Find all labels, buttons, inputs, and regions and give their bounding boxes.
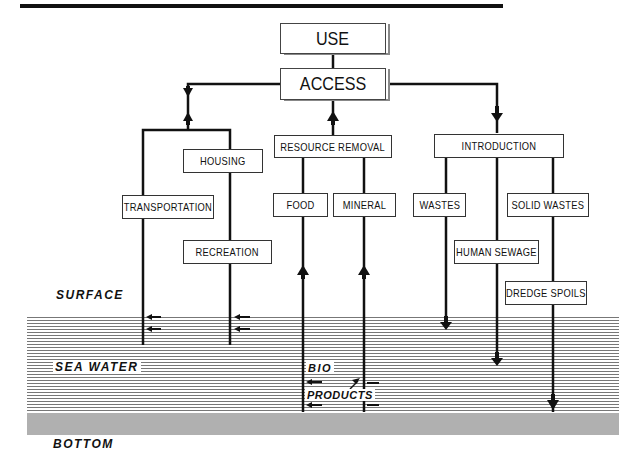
recreation-box: RECREATION bbox=[183, 240, 272, 264]
access-box: ACCESS bbox=[280, 68, 386, 100]
wastes-box: WASTES bbox=[413, 193, 466, 217]
resource-removal-label: RESOURCE REMOVAL bbox=[281, 141, 386, 153]
introduction-label: INTRODUCTION bbox=[462, 140, 537, 152]
introduction-box: INTRODUCTION bbox=[434, 134, 564, 158]
sea-water-label: SEA WATER bbox=[53, 360, 141, 374]
bottom-label: BOTTOM bbox=[51, 437, 116, 451]
housing-box: HOUSING bbox=[183, 149, 263, 173]
products-label: PRODUCTS bbox=[305, 389, 375, 401]
use-box: USE bbox=[280, 23, 386, 54]
transportation-label: TRANSPORTATION bbox=[124, 201, 212, 213]
mineral-box: MINERAL bbox=[333, 193, 396, 217]
human-sewage-label: HUMAN SEWAGE bbox=[456, 246, 537, 258]
mineral-label: MINERAL bbox=[343, 199, 386, 211]
surface-label: SURFACE bbox=[54, 288, 126, 302]
dredge-spoils-box: DREDGE SPOILS bbox=[505, 281, 587, 305]
wastes-label: WASTES bbox=[419, 199, 460, 211]
food-label: FOOD bbox=[286, 199, 314, 211]
bio-label: BIO bbox=[306, 362, 334, 374]
housing-label: HOUSING bbox=[200, 155, 245, 167]
transportation-box: TRANSPORTATION bbox=[122, 195, 214, 219]
solid-wastes-label: SOLID WASTES bbox=[512, 199, 585, 211]
human-sewage-box: HUMAN SEWAGE bbox=[454, 240, 539, 264]
use-label: USE bbox=[316, 28, 349, 50]
dredge-spoils-label: DREDGE SPOILS bbox=[506, 287, 586, 299]
food-box: FOOD bbox=[273, 193, 328, 217]
recreation-label: RECREATION bbox=[196, 246, 259, 258]
resource-removal-box: RESOURCE REMOVAL bbox=[274, 135, 392, 158]
solid-wastes-box: SOLID WASTES bbox=[507, 193, 589, 217]
access-label: ACCESS bbox=[300, 73, 366, 95]
